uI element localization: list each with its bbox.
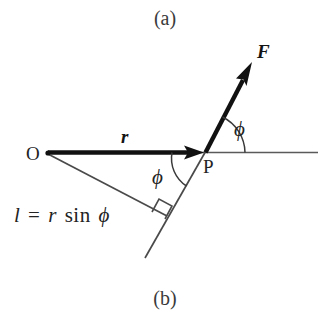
equation-rhs-function: sin (63, 203, 93, 227)
equation-lhs: l (14, 203, 20, 227)
moment-arm-equation: l = r sin ϕ (14, 205, 110, 226)
lower-phi-label: ϕ (152, 167, 163, 188)
equation-equals: = (26, 203, 42, 227)
origin-point-label: O (26, 144, 40, 163)
lower-phi-arc (171, 153, 186, 187)
position-vector-label: r (121, 127, 128, 146)
equation-rhs-var: r (48, 203, 57, 227)
application-point-label: P (203, 157, 214, 176)
force-vector-label: F (257, 42, 270, 61)
torque-diagram-svg (0, 0, 330, 319)
upper-phi-label: ϕ (234, 119, 245, 140)
equation-rhs-angle: ϕ (98, 203, 109, 227)
panel-label-b: (b) (0, 288, 330, 308)
panel-label-a: (a) (0, 8, 330, 28)
origin-point-marker (45, 150, 50, 155)
figure-root: (a) (b) O P r F ϕ ϕ l = r sin ϕ (0, 0, 330, 319)
